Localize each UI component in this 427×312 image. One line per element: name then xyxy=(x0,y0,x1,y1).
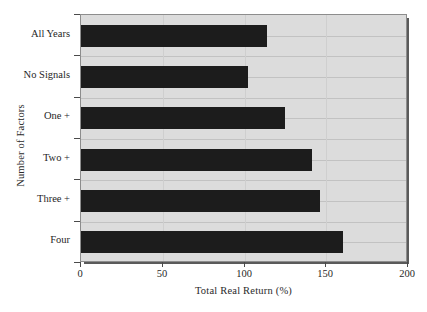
x-axis-tick xyxy=(244,262,245,267)
x-axis-tick xyxy=(80,262,81,267)
x-axis-tick xyxy=(325,262,326,267)
bar-chart-figure: Number of Factors All YearsNo SignalsOne… xyxy=(0,0,427,312)
gridline-vertical xyxy=(245,15,246,261)
x-axis-tick-label: 200 xyxy=(387,268,427,279)
x-axis-tick xyxy=(162,262,163,267)
y-axis-tick-label: One + xyxy=(0,110,70,121)
bar xyxy=(81,25,267,47)
y-axis-tick xyxy=(74,221,80,222)
y-axis-tick xyxy=(74,97,80,98)
y-axis-tick xyxy=(74,14,80,15)
plot-area xyxy=(80,14,407,262)
gridline-horizontal xyxy=(81,139,406,140)
gridline-vertical xyxy=(326,15,327,261)
y-axis-tick-label: Three + xyxy=(0,193,70,204)
bar xyxy=(81,190,320,212)
y-axis-tick-label: Two + xyxy=(0,152,70,163)
x-axis-title: Total Real Return (%) xyxy=(80,285,407,296)
bar xyxy=(81,66,248,88)
y-axis-tick-label: No Signals xyxy=(0,69,70,80)
y-axis-tick-label: All Years xyxy=(0,28,70,39)
gridline-horizontal xyxy=(81,180,406,181)
gridline-horizontal xyxy=(81,98,406,99)
y-axis-tick-label: Four xyxy=(0,234,70,245)
y-axis-tick xyxy=(74,179,80,180)
y-axis-tick xyxy=(74,138,80,139)
gridline-horizontal xyxy=(81,56,406,57)
x-axis-tick-label: 50 xyxy=(142,268,182,279)
gridline-vertical xyxy=(163,15,164,261)
bar xyxy=(81,231,343,253)
gridline-horizontal xyxy=(81,222,406,223)
x-axis-tick-label: 150 xyxy=(305,268,345,279)
x-axis-tick xyxy=(407,262,408,267)
bar xyxy=(81,107,285,129)
x-axis-tick-label: 0 xyxy=(60,268,100,279)
bar xyxy=(81,149,312,171)
y-axis-tick xyxy=(74,55,80,56)
x-axis-tick-label: 100 xyxy=(224,268,264,279)
